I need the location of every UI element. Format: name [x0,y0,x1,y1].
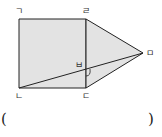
answer-close-paren: ) [148,112,154,127]
answer-open-paren: ( [1,112,7,127]
label-g: ㄱ [15,7,23,16]
label-b: ㅂ [75,61,83,70]
label-r: ㄹ [82,7,90,16]
label-m: ㅁ [146,49,154,58]
square-gndr [19,19,86,88]
label-n: ㄴ [15,92,23,101]
triangle-rdm [86,19,143,88]
answer-blank[interactable] [20,112,140,130]
label-d: ㄷ [82,92,90,101]
